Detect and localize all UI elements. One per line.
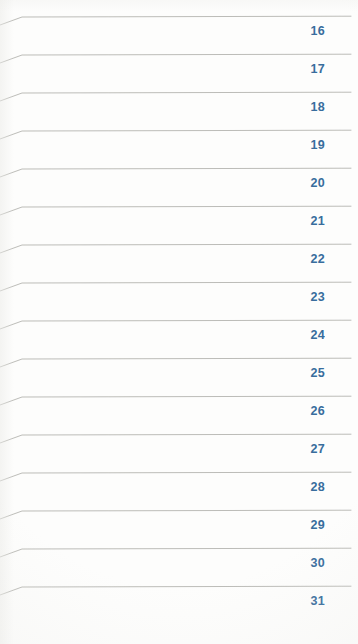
day-number: 29 bbox=[310, 519, 325, 532]
planner-page: 16171819202122232425262728293031 bbox=[0, 0, 358, 644]
rule-line bbox=[0, 49, 358, 61]
rule-line bbox=[0, 429, 358, 441]
rule-line bbox=[0, 163, 358, 175]
rule-line bbox=[0, 277, 358, 289]
ruled-row: 27 bbox=[0, 429, 358, 467]
ruled-row: 16 bbox=[0, 11, 358, 49]
ruled-row: 22 bbox=[0, 239, 358, 277]
day-number: 30 bbox=[310, 557, 325, 570]
ruled-row: 26 bbox=[0, 391, 358, 429]
day-number: 17 bbox=[310, 63, 325, 76]
ruled-row: 20 bbox=[0, 163, 358, 201]
rule-line bbox=[0, 125, 358, 137]
rule-line bbox=[0, 581, 358, 593]
ruled-row: 18 bbox=[0, 87, 358, 125]
day-number: 24 bbox=[310, 329, 325, 342]
day-number: 16 bbox=[310, 25, 325, 38]
day-number: 31 bbox=[310, 595, 325, 608]
rule-line bbox=[0, 543, 358, 555]
ruled-row: 25 bbox=[0, 353, 358, 391]
ruled-row: 24 bbox=[0, 315, 358, 353]
ruled-row: 30 bbox=[0, 543, 358, 581]
rule-line bbox=[0, 201, 358, 213]
day-number: 27 bbox=[310, 443, 325, 456]
day-number: 28 bbox=[310, 481, 325, 494]
rule-line bbox=[0, 315, 358, 327]
ruled-row: 29 bbox=[0, 505, 358, 543]
ruled-row: 17 bbox=[0, 49, 358, 87]
ruled-row: 19 bbox=[0, 125, 358, 163]
day-number: 19 bbox=[310, 139, 325, 152]
day-number: 21 bbox=[310, 215, 325, 228]
ruled-row: 31 bbox=[0, 581, 358, 619]
rule-line bbox=[0, 467, 358, 479]
day-number: 25 bbox=[310, 367, 325, 380]
rule-line bbox=[0, 391, 358, 403]
day-number: 18 bbox=[310, 101, 325, 114]
rule-line bbox=[0, 505, 358, 517]
rule-line bbox=[0, 11, 358, 23]
ruled-row: 23 bbox=[0, 277, 358, 315]
ruled-row: 28 bbox=[0, 467, 358, 505]
rule-line bbox=[0, 87, 358, 99]
rule-line bbox=[0, 353, 358, 365]
day-number: 26 bbox=[310, 405, 325, 418]
rule-line bbox=[0, 239, 358, 251]
ruled-row: 21 bbox=[0, 201, 358, 239]
day-number: 20 bbox=[310, 177, 325, 190]
day-number: 23 bbox=[310, 291, 325, 304]
day-number: 22 bbox=[310, 253, 325, 266]
